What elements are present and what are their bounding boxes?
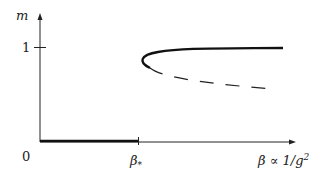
bifurcation-diagram: m 1 0 β* β ∝ 1/g2 [0,0,325,180]
y-axis-label: m [16,8,28,23]
x-tick-label: β* [129,153,143,170]
x-tick-label-main: β [129,153,138,168]
x-axis-label: β ∝ 1/g2 [257,152,310,168]
origin-label: 0 [22,149,30,164]
unstable-branch [150,68,272,89]
x-axis-arrow-icon [289,140,296,145]
x-tick-label-sub: * [138,160,143,170]
y-axis-arrow-icon [38,13,43,20]
stable-branch [142,48,283,68]
x-axis-label-main: β ∝ 1/g [257,153,304,168]
x-axis-label-sup: 2 [303,152,310,162]
y-tick-label: 1 [22,40,30,55]
